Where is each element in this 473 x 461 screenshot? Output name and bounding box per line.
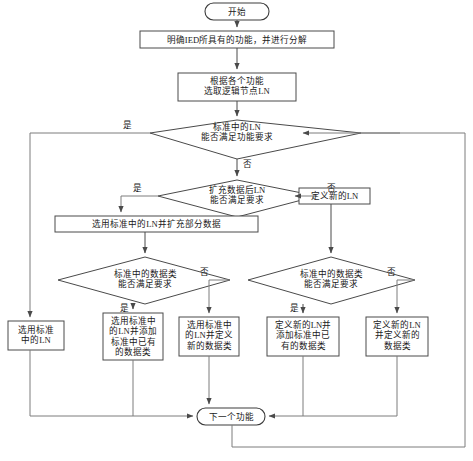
node-use-standard-ln-extended (55, 216, 258, 232)
edge-label-decision-ln-no: 否 (240, 159, 254, 169)
edge-label-decision-ext-no: 否 (324, 183, 338, 193)
node-start (205, 3, 269, 20)
flowchart-svg (0, 0, 473, 461)
node-decision-datatype-left (58, 257, 230, 304)
edge-label-decision-ln-yes: 是 (120, 120, 134, 130)
node-decision-extended-ln (158, 180, 317, 217)
node-result-use-standard-ln (8, 321, 64, 350)
edge-decision-ext-yes (121, 196, 158, 212)
edge-dt-right-no (397, 280, 415, 313)
flowchart-canvas: 开始 明确IED所具有的功能，并进行分解 根据各个功能 选取逻辑节点LN 标准中… (0, 0, 473, 461)
node-result-use-standard-ln-new-dt (179, 317, 239, 356)
edge-label-dt-left-yes: 是 (117, 303, 131, 313)
edge-r5-bottom (269, 356, 397, 416)
node-next-function (197, 408, 265, 425)
node-decision-datatype-right (248, 257, 415, 304)
node-result-new-ln-add-dt (267, 317, 339, 356)
node-decision-standard-ln (150, 120, 361, 159)
edge-label-dt-right-yes: 是 (287, 303, 301, 313)
edge-label-dt-right-no: 否 (384, 267, 398, 277)
node-result-use-standard-ln-add-dt (103, 313, 163, 360)
edge-label-decision-ext-yes: 是 (130, 183, 144, 193)
node-select-ln (178, 73, 296, 101)
node-result-new-ln-new-dt (366, 317, 428, 356)
node-clarify (140, 31, 334, 48)
edge-label-dt-left-no: 否 (197, 267, 211, 277)
